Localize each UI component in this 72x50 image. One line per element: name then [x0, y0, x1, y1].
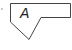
dot-marker — [1, 8, 3, 10]
callout-diagram — [0, 0, 72, 50]
callout-label: A — [20, 5, 29, 21]
